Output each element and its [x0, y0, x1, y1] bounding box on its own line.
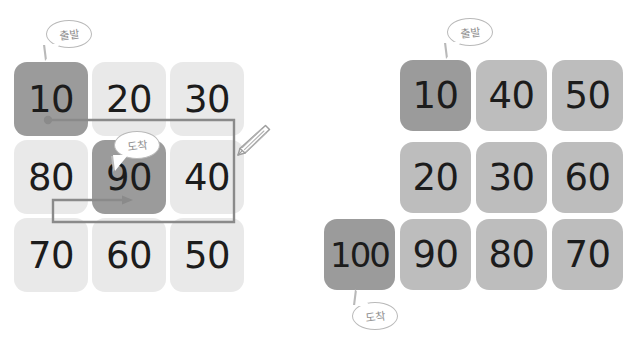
start-callout-left: 출발 [46, 20, 92, 48]
grid-cell-90-right[interactable]: 90 [400, 219, 471, 290]
cell-value: 60 [106, 237, 152, 274]
grid-cell-40-right[interactable]: 40 [476, 60, 547, 131]
cell-value: 80 [488, 236, 534, 273]
cell-value: 10 [412, 77, 458, 114]
cell-value: 80 [28, 159, 74, 196]
cell-value: 50 [184, 237, 230, 274]
grid-cell-60-left[interactable]: 60 [92, 218, 166, 292]
end-callout-right: 도착 [352, 302, 398, 330]
grid-cell-80-right[interactable]: 80 [476, 219, 547, 290]
grid-cell-70-right[interactable]: 70 [552, 219, 623, 290]
callout-tail-icon [355, 290, 370, 306]
cell-value: 60 [564, 159, 610, 196]
cell-value: 50 [564, 77, 610, 114]
grid-cell-50-left[interactable]: 50 [170, 218, 244, 292]
grid-cell-20-right[interactable]: 20 [400, 142, 471, 213]
grid-cell-80-left[interactable]: 80 [14, 140, 88, 214]
grid-cell-10-right[interactable]: 10 [400, 60, 471, 131]
end-callout-left: 도착 [114, 131, 160, 159]
cell-value: 20 [106, 81, 152, 118]
cell-value: 30 [184, 81, 230, 118]
start-callout-label: 출발 [458, 23, 481, 42]
diagram-canvas: 10 20 30 80 90 40 70 60 50 [0, 0, 631, 353]
cell-value: 40 [488, 77, 534, 114]
grid-cell-20-left[interactable]: 20 [92, 62, 166, 136]
cell-value: 10 [28, 81, 74, 118]
grid-cell-50-right[interactable]: 50 [552, 60, 623, 131]
cell-value: 30 [488, 159, 534, 196]
cell-value: 20 [412, 159, 458, 196]
cell-value: 70 [564, 236, 610, 273]
grid-cell-30-right[interactable]: 30 [476, 142, 547, 213]
callout-tail-icon [113, 155, 128, 171]
cell-value: 70 [28, 237, 74, 274]
pencil-icon [229, 122, 273, 164]
grid-cell-60-right[interactable]: 60 [552, 142, 623, 213]
end-callout-label: 도착 [125, 136, 148, 155]
start-callout-label: 출발 [57, 25, 80, 44]
callout-tail-icon [446, 42, 461, 58]
grid-cell-10-left[interactable]: 10 [14, 62, 88, 136]
grid-cell-70-left[interactable]: 70 [14, 218, 88, 292]
cell-value: 90 [412, 236, 458, 273]
callout-tail-icon [45, 44, 60, 60]
start-callout-right: 출발 [447, 18, 493, 46]
cell-value: 100 [330, 238, 389, 272]
end-callout-label: 도착 [363, 307, 386, 326]
cell-value: 40 [184, 159, 230, 196]
grid-cell-100-right[interactable]: 100 [324, 219, 395, 290]
